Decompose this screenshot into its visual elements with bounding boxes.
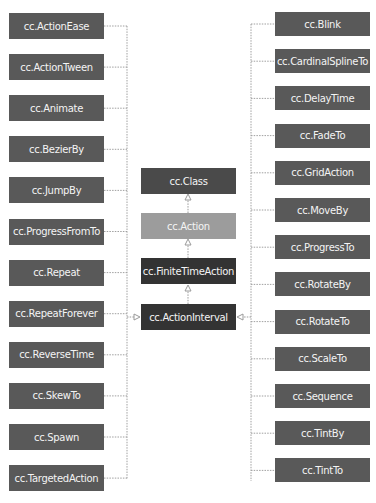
class-box-skewto: cc.SkewTo — [9, 383, 104, 409]
class-box-rotateby: cc.RotateBy — [275, 272, 370, 296]
class-box-actiontween: cc.ActionTween — [9, 54, 104, 80]
class-box-targetedaction: cc.TargetedAction — [9, 465, 104, 491]
class-box-repeatforever: cc.RepeatForever — [9, 301, 104, 327]
class-box-finitetimeaction: cc.FiniteTimeAction — [141, 258, 236, 284]
class-box-cardinalsplineto: cc.CardinalSplineTo — [275, 49, 370, 73]
class-box-moveby: cc.MoveBy — [275, 198, 370, 222]
class-box-progressto: cc.ProgressTo — [275, 235, 370, 259]
class-box-class: cc.Class — [141, 168, 236, 194]
class-box-action: cc.Action — [141, 213, 236, 239]
class-box-delaytime: cc.DelayTime — [275, 86, 370, 110]
class-box-blink: cc.Blink — [275, 12, 370, 36]
class-box-actionease: cc.ActionEase — [9, 13, 104, 39]
class-box-tintto: cc.TintTo — [275, 458, 370, 482]
class-box-sequence: cc.Sequence — [275, 384, 370, 408]
class-box-tintby: cc.TintBy — [275, 421, 370, 445]
class-box-gridaction: cc.GridAction — [275, 161, 370, 185]
class-box-scaleto: cc.ScaleTo — [275, 347, 370, 371]
class-box-actioninterval: cc.ActionInterval — [141, 304, 236, 330]
class-box-fadeto: cc.FadeTo — [275, 124, 370, 148]
class-box-animate: cc.Animate — [9, 95, 104, 121]
class-box-jumpby: cc.JumpBy — [9, 177, 104, 203]
class-box-progressfromto: cc.ProgressFromTo — [9, 219, 104, 245]
class-box-bezierby: cc.BezierBy — [9, 136, 104, 162]
class-box-repeat: cc.Repeat — [9, 260, 104, 286]
class-box-rotateto: cc.RotateTo — [275, 310, 370, 334]
class-box-reversetime: cc.ReverseTime — [9, 342, 104, 368]
class-box-spawn: cc.Spawn — [9, 424, 104, 450]
